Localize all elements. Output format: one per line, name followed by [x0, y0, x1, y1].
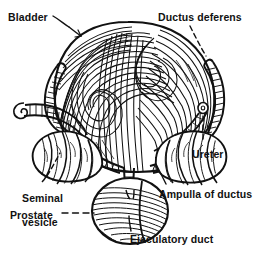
label-ductus-deferens: Ductus deferens — [158, 11, 242, 23]
label-ejaculatory-duct: Ejaculatory duct — [130, 233, 213, 245]
anatomy-figure: Bladder Ductus deferens Ureter Ampulla o… — [0, 0, 256, 254]
label-prostate: Prostate — [10, 209, 53, 221]
label-bladder: Bladder — [8, 11, 48, 23]
label-ureter: Ureter — [192, 148, 224, 160]
label-seminal-vesicle-line1: Seminal — [22, 192, 63, 204]
label-ampulla-of-ductus: Ampulla of ductus — [159, 188, 252, 200]
leader-bladder-a — [53, 16, 69, 27]
